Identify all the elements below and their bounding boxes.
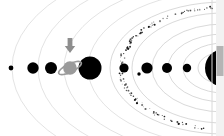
asteroid-dot	[143, 106, 144, 107]
asteroid-dot	[206, 7, 207, 8]
asteroid-dot	[125, 84, 126, 85]
asteroid-dot	[124, 87, 125, 88]
asteroid-dot	[128, 90, 130, 92]
planets-group	[9, 57, 192, 80]
asteroid-dot	[119, 72, 121, 74]
asteroid-dot	[185, 123, 187, 125]
asteroid-dot	[141, 32, 143, 34]
orbit-10	[12, 0, 224, 136]
asteroid-dot	[120, 55, 122, 57]
asteroid-dot	[166, 18, 167, 19]
asteroid-dot	[124, 81, 125, 82]
asteroid-dot	[175, 13, 177, 15]
orbits-group	[12, 0, 224, 136]
asteroid-dot	[194, 10, 196, 12]
asteroid-dot	[182, 124, 184, 126]
asteroid-dot	[203, 128, 204, 129]
asteroid-dot	[140, 29, 142, 31]
asteroid-dot	[143, 27, 145, 29]
asteroid-dot	[155, 112, 156, 113]
asteroid-dot	[130, 92, 132, 94]
asteroid-dot	[182, 122, 183, 123]
asteroid-dot	[190, 10, 191, 11]
scene-svg	[0, 0, 224, 136]
asteroid-dot	[157, 114, 159, 116]
asteroid-dot	[153, 24, 154, 25]
asteroid-dot	[197, 9, 198, 10]
asteroid-dot	[122, 73, 124, 75]
planet-saturn[interactable]	[63, 61, 77, 75]
asteroid-dot	[204, 9, 205, 10]
asteroid-dot	[130, 95, 131, 96]
asteroid-dot	[126, 90, 128, 92]
asteroid-dot	[125, 49, 127, 51]
asteroid-dot	[153, 112, 155, 114]
asteroid-dot	[167, 15, 168, 16]
asteroid-dot	[201, 128, 203, 130]
asteroid-dot	[162, 115, 163, 116]
asteroid-dot	[136, 102, 138, 104]
mouse-cursor-group	[65, 38, 75, 53]
planet-jupiter[interactable]	[79, 57, 102, 80]
asteroid-dot	[123, 78, 125, 80]
asteroid-dot	[131, 40, 132, 41]
asteroid-dot	[152, 25, 153, 26]
planet-neptune[interactable]	[27, 62, 38, 73]
asteroid-dot	[135, 98, 137, 100]
planet-mars[interactable]	[119, 63, 128, 72]
asteroid-dot	[144, 108, 146, 110]
planet-venus[interactable]	[162, 63, 172, 73]
asteroid-dot	[128, 48, 129, 49]
mouse-cursor[interactable]	[65, 38, 75, 53]
asteroid-dot	[120, 61, 121, 62]
asteroid-dot	[194, 127, 196, 129]
asteroid-dot	[133, 95, 135, 97]
asteroid-dot	[176, 121, 178, 123]
asteroid-dot	[154, 114, 155, 115]
asteroid-dot	[184, 11, 185, 12]
asteroid-dot	[131, 37, 133, 39]
asteroid-dot	[178, 123, 180, 125]
asteroid-dot	[141, 104, 143, 106]
asteroid-dot	[137, 98, 138, 99]
asteroid-dot	[124, 57, 126, 59]
asteroid-dot	[120, 57, 121, 58]
scrollbar-thumb[interactable]	[217, 46, 224, 76]
asteroid-dot	[181, 13, 183, 15]
asteroid-dot	[129, 93, 130, 94]
asteroid-dot	[186, 10, 187, 11]
planet-uranus[interactable]	[45, 62, 57, 74]
moon[interactable]	[137, 72, 140, 75]
asteroid-dot	[142, 102, 143, 103]
asteroid-dot	[120, 80, 122, 82]
asteroid-dot	[153, 22, 154, 23]
planet-earth[interactable]	[141, 62, 152, 73]
asteroid-dot	[148, 26, 150, 28]
asteroid-dot	[164, 116, 166, 118]
asteroid-dot	[170, 120, 172, 122]
asteroid-dot	[122, 84, 123, 85]
asteroid-dot	[139, 33, 140, 34]
asteroid-dot	[199, 9, 201, 11]
planet-mercury[interactable]	[183, 64, 191, 72]
asteroid-dot	[162, 18, 163, 19]
asteroid-dot	[126, 87, 127, 88]
asteroid-dot	[164, 119, 165, 120]
asteroid-dot	[126, 47, 128, 49]
asteroid-dot	[150, 26, 151, 27]
asteroid-dot	[209, 6, 211, 8]
asteroid-dot	[150, 24, 151, 25]
asteroid-dot	[195, 125, 196, 126]
asteroid-dot	[123, 53, 124, 54]
asteroid-dot	[138, 36, 139, 37]
asteroid-dot	[130, 41, 132, 43]
asteroid-dot	[151, 22, 152, 23]
asteroid-dot	[194, 9, 195, 10]
asteroid-dot	[150, 108, 151, 109]
asteroid-dot	[120, 75, 121, 76]
planet-pluto[interactable]	[9, 66, 14, 71]
solar-system-diagram	[0, 0, 224, 136]
asteroid-dot	[198, 128, 199, 129]
asteroid-dot	[129, 46, 131, 48]
asteroid-dot	[120, 77, 121, 78]
